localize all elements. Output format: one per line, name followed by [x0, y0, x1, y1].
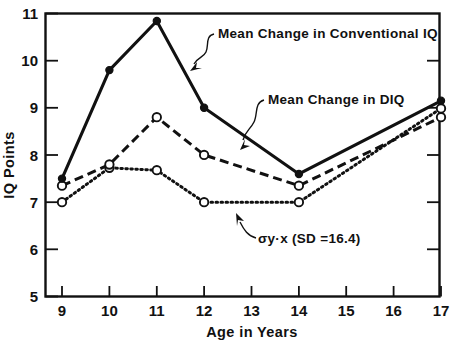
annotation-conventional-iq-leader	[194, 34, 214, 64]
y-tick-label-7: 7	[30, 194, 38, 211]
x-tick-label-10: 10	[101, 302, 118, 319]
annotation-diq-label: Mean Change in DIQ	[268, 92, 405, 107]
chart-svg: 11 10 9 8 7 6 5 IQ Points 9 10 11 12 13 …	[0, 0, 464, 343]
annotation-conventional-iq-label: Mean Change in Conventional IQ	[218, 26, 438, 41]
chart-figure: 11 10 9 8 7 6 5 IQ Points 9 10 11 12 13 …	[0, 0, 464, 343]
y-axis-title: IQ Points	[1, 131, 17, 198]
series-line-diq	[62, 117, 441, 186]
x-tick-label-14: 14	[291, 302, 308, 319]
x-tick-label-11: 11	[149, 302, 165, 319]
x-tick-label-17: 17	[433, 302, 450, 319]
x-tick-label-16: 16	[385, 302, 402, 319]
y-tick-label-6: 6	[30, 241, 38, 258]
annotation-sd-leader	[240, 222, 256, 238]
y-tick-label-5: 5	[30, 288, 38, 305]
plot-frame	[46, 14, 440, 297]
y-axis-ticks	[46, 14, 59, 297]
x-tick-label-12: 12	[196, 302, 213, 319]
annotation-sd-arrowhead	[236, 213, 244, 226]
annotation-diq-leader	[243, 100, 264, 140]
series-markers-diq	[58, 113, 445, 190]
y-tick-label-11: 11	[22, 5, 38, 22]
x-tick-label-9: 9	[58, 302, 66, 319]
x-axis-ticks	[62, 286, 441, 297]
x-axis-title: Age in Years	[206, 324, 298, 340]
annotation-sd-label: σy·x (SD =16.4)	[258, 231, 361, 246]
annotation-conventional-iq-arrowhead	[190, 62, 202, 71]
y-tick-label-10: 10	[21, 52, 38, 69]
series-markers-sigma	[58, 104, 445, 206]
y-tick-label-9: 9	[30, 99, 38, 116]
y-axis-ticks-right	[427, 61, 440, 250]
y-tick-label-8: 8	[30, 147, 38, 164]
series-line-sigma	[62, 108, 441, 202]
x-tick-label-13: 13	[243, 302, 260, 319]
x-tick-label-15: 15	[338, 302, 355, 319]
